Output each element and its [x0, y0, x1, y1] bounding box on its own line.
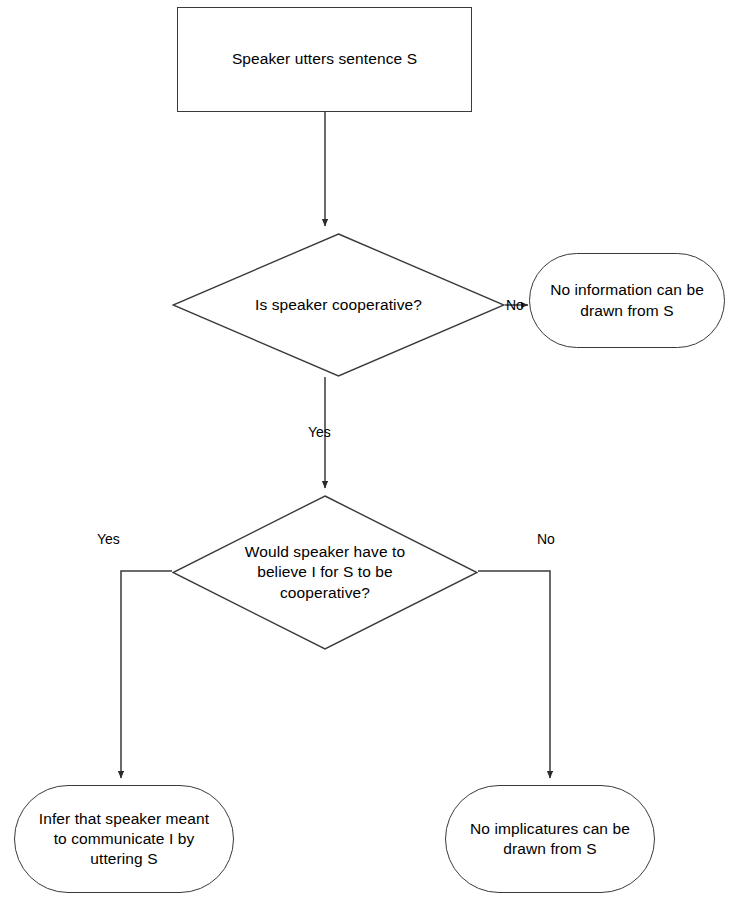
- node-no-implicatures-drawn[interactable]: No implicatures can be drawn from S: [445, 785, 655, 893]
- edge-label-believe-yes: Yes: [97, 532, 120, 546]
- node-no-information-drawn[interactable]: No information can be drawn from S: [529, 253, 725, 348]
- node-speaker-utters-sentence[interactable]: Speaker utters sentence S: [177, 7, 472, 112]
- node-label: No information can be drawn from S: [550, 280, 704, 320]
- node-decision-would-speaker-believe[interactable]: Would speaker have to believe I for S to…: [172, 495, 478, 650]
- edge-label-cooperative-yes: Yes: [308, 425, 331, 439]
- node-label: Is speaker cooperative?: [255, 295, 422, 315]
- node-label: Infer that speaker meant to communicate …: [39, 809, 209, 869]
- flowchart-connectors: [0, 0, 737, 918]
- node-label: Speaker utters sentence S: [232, 49, 417, 69]
- edge-believe-no: [478, 571, 550, 778]
- node-label: Would speaker have to believe I for S to…: [245, 542, 405, 602]
- node-label: No implicatures can be drawn from S: [470, 819, 630, 859]
- node-decision-is-speaker-cooperative[interactable]: Is speaker cooperative?: [172, 233, 505, 377]
- edge-believe-yes: [121, 571, 172, 778]
- flowchart-canvas: Speaker utters sentence S Is speaker coo…: [0, 0, 737, 918]
- edge-label-cooperative-no: No: [506, 298, 524, 312]
- node-infer-speaker-meant[interactable]: Infer that speaker meant to communicate …: [14, 785, 234, 893]
- edge-label-believe-no: No: [537, 532, 555, 546]
